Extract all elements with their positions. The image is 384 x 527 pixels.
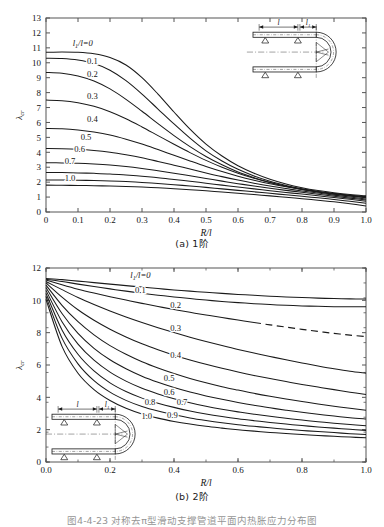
plot-frame: [46, 268, 366, 462]
svg-text:0.0: 0.0: [40, 465, 52, 475]
curve-label: 0.3: [170, 323, 181, 333]
svg-text:0: 0: [44, 215, 49, 225]
svg-text:2: 2: [37, 177, 42, 187]
svg-text:11: 11: [32, 43, 41, 53]
svg-text:6: 6: [37, 360, 42, 370]
svg-text:8: 8: [37, 88, 42, 98]
svg-text:0: 0: [37, 207, 42, 217]
panel-a-caption: (a) 1阶: [0, 236, 384, 250]
chart-panel-a: 00.10.20.30.40.50.60.70.80.91.0012345678…: [0, 0, 384, 252]
curve-label: 0.3: [87, 91, 98, 101]
inset-label-l: l: [76, 400, 78, 409]
curve-label: 1.0: [141, 411, 152, 421]
svg-text:0.9: 0.9: [328, 215, 340, 225]
svg-text:8: 8: [37, 328, 42, 338]
svg-text:0.2: 0.2: [104, 215, 115, 225]
svg-text:0.8: 0.8: [296, 215, 308, 225]
svg-text:0: 0: [37, 457, 42, 467]
plot-b-svg: 0.00.20.40.60.81.0024681012R/lλcrl1/l=0l…: [0, 252, 384, 504]
curve-label: 0.4: [170, 350, 181, 360]
curve-label: 0.2: [170, 300, 181, 310]
svg-text:6: 6: [37, 118, 42, 128]
chart-panel-b: 0.00.20.40.60.81.0024681012R/lλcrl1/l=0l…: [0, 252, 384, 504]
svg-text:12: 12: [32, 28, 41, 38]
svg-text:9: 9: [37, 73, 42, 83]
svg-text:0.4: 0.4: [168, 465, 180, 475]
svg-text:3: 3: [37, 162, 42, 172]
svg-text:0.4: 0.4: [168, 215, 180, 225]
svg-text:5: 5: [37, 133, 42, 143]
svg-text:0.3: 0.3: [136, 215, 148, 225]
curve-label: 0.4: [87, 114, 98, 124]
inset-label-l1: l₁: [105, 400, 110, 409]
svg-text:0.5: 0.5: [200, 215, 212, 225]
svg-text:13: 13: [32, 13, 42, 23]
figure-container: 00.10.20.30.40.50.60.70.80.91.0012345678…: [0, 0, 384, 527]
curve-label: 0.7: [177, 397, 188, 407]
svg-text:2: 2: [37, 425, 42, 435]
svg-text:12: 12: [32, 263, 41, 273]
svg-text:10: 10: [32, 58, 42, 68]
svg-text:0.6: 0.6: [232, 465, 244, 475]
x-axis-label: R/l: [199, 478, 211, 488]
y-axis-label: λcr: [14, 110, 25, 121]
svg-text:0.8: 0.8: [296, 465, 308, 475]
inset-label-l1: l₁: [306, 18, 311, 27]
panel-b-caption: (b) 2阶: [0, 489, 384, 503]
curve-label: 0.1: [135, 285, 146, 295]
svg-text:1: 1: [37, 192, 42, 202]
curve-label: 0.6: [74, 144, 85, 154]
curve-label: 1.0: [65, 173, 76, 183]
curve-label: 0.8: [145, 397, 156, 407]
svg-text:0.7: 0.7: [264, 215, 276, 225]
y-axis-label: λcr: [14, 360, 25, 371]
svg-text:10: 10: [32, 296, 42, 306]
svg-text:1.0: 1.0: [360, 215, 372, 225]
curve-label: 0.9: [167, 410, 178, 420]
svg-text:0.2: 0.2: [104, 465, 115, 475]
plot-a-svg: 00.10.20.30.40.50.60.70.80.91.0012345678…: [0, 0, 384, 252]
inset-label-l: l: [277, 18, 279, 27]
curve-label: 0.5: [164, 373, 175, 383]
figure-caption: 图4-4-23 对称去π型滑动支撑管道平面内热胀应力分布图: [0, 513, 384, 527]
svg-text:1.0: 1.0: [360, 465, 372, 475]
curve-label: 0.6: [164, 387, 175, 397]
curve-label: 0.5: [81, 132, 92, 142]
svg-text:7: 7: [37, 103, 42, 113]
curve-label: 0.7: [65, 156, 76, 166]
curve-label: 0.2: [87, 69, 98, 79]
curve-label: 0.1: [87, 56, 98, 66]
svg-text:0.6: 0.6: [232, 215, 244, 225]
svg-text:4: 4: [37, 393, 42, 403]
svg-text:4: 4: [37, 148, 42, 158]
svg-text:0.1: 0.1: [72, 215, 83, 225]
